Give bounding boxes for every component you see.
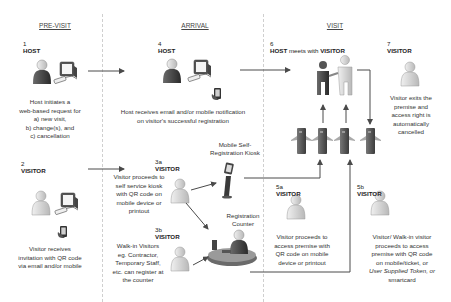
- visitor-person-icon: [171, 247, 189, 271]
- step-2-header: 2 VISITOR: [21, 160, 46, 174]
- step-6-header: 6 HOST meets with VISITOR: [270, 40, 345, 54]
- visitor-person-icon: [171, 179, 189, 203]
- step-4-header: 4 HOST: [158, 40, 175, 54]
- step-3b-description: Walk-in Visitors eg. Contractor, Tempora…: [104, 242, 172, 285]
- visitor-person-icon: [401, 62, 419, 86]
- step-5b-description: Visitor/ Walk-in visitor proceeds to acc…: [356, 233, 448, 285]
- host-person-icon: [33, 60, 51, 84]
- turnstile-gate-icon: [291, 128, 381, 154]
- kiosk-icon: [222, 162, 234, 198]
- step-3a-header: 3a VISITOR: [155, 158, 180, 172]
- step-7-header: 7 VISITOR: [387, 40, 412, 54]
- step-5b-header: 5b VISITOR: [357, 183, 382, 197]
- handshake-icon: [317, 56, 352, 96]
- visitor-person-icon: [32, 191, 50, 215]
- host-person-icon: [163, 59, 181, 83]
- registration-counter-icon: [207, 230, 257, 266]
- step-3b-header: 3b VISITOR: [155, 226, 180, 240]
- step-7-description: Visitor exits the premise and access rig…: [380, 94, 442, 137]
- step-1-header: 1 HOST: [23, 40, 40, 54]
- mobile-phone-icon: [212, 88, 221, 100]
- step-5a-description: Visitor proceeds to access premise with …: [266, 233, 338, 267]
- registration-counter-label: Registration Counter: [218, 212, 268, 228]
- step-2-description: Visitor receives invitation with QR code…: [4, 245, 96, 271]
- kiosk-label: Mobile Self- Registration Kiosk: [200, 141, 270, 157]
- step-1-description: Host initiates a web-based request for a…: [8, 98, 92, 141]
- computer-icon: [188, 60, 211, 82]
- visitor-person-icon: [287, 195, 305, 219]
- step-3a-description: Visitor proceeds to self service kiosk w…: [106, 173, 172, 216]
- step-5a-header: 5a VISITOR: [276, 183, 301, 197]
- step-4-description: Host receives email and/or mobile notifi…: [108, 108, 258, 125]
- computer-icon: [55, 193, 78, 215]
- computer-icon: [54, 62, 77, 84]
- mobile-phone-icon: [58, 226, 67, 238]
